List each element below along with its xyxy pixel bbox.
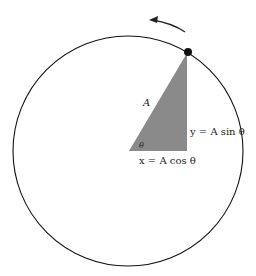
triangle (129, 53, 187, 151)
horizontal-equation: x = A cos θ (139, 155, 196, 166)
circular-motion-diagram: A θ y = A sin θ x = A cos θ (0, 0, 256, 276)
circle (13, 36, 243, 266)
particle-dot (184, 48, 192, 56)
angle-label: θ (139, 141, 144, 150)
vertical-equation: y = A sin θ (189, 126, 245, 137)
hypotenuse-label: A (142, 97, 150, 108)
arrowhead-icon (149, 16, 158, 23)
